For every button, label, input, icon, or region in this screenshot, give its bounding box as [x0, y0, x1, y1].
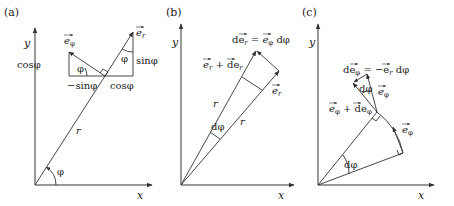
e-phi-right-label: eφ	[402, 124, 413, 137]
svg-text:eφ: eφ	[378, 86, 389, 99]
e-r-label: er	[272, 85, 282, 98]
e-r-label: e r	[136, 27, 146, 40]
dphi-label: dφ	[211, 121, 224, 132]
svg-text:eφ: eφ	[402, 124, 413, 137]
minus-sin-label: −sinφ	[67, 80, 97, 91]
e-phi-plus-de-phi-label: eφ + deφ	[329, 103, 372, 116]
e-phi-top-label: eφ	[378, 86, 389, 99]
e-r-plus-de-r-label: er + der	[203, 59, 243, 72]
x-axis-label: x	[418, 189, 425, 202]
dphi-arc-mark	[210, 132, 220, 139]
svg-text:φ: φ	[70, 40, 75, 48]
panel-b: (b) y x dφ r r der = eφ dφ er + der	[166, 6, 294, 202]
x-axis-label: x	[137, 189, 144, 202]
r-label: r	[76, 125, 82, 136]
y-axis-label: y	[171, 36, 179, 49]
e-phi-label: e φ	[64, 35, 75, 48]
dphi-angle-label: dφ	[344, 159, 357, 170]
svg-text:er: er	[272, 85, 282, 98]
phi-left-label: φ	[77, 63, 84, 74]
panel-c-label: (c)	[302, 6, 317, 19]
svg-text:deφ = −er dφ: deφ = −er dφ	[343, 64, 409, 77]
phi-left-arc	[85, 68, 87, 76]
svg-text:r: r	[142, 32, 146, 40]
phi-right-label: φ	[121, 53, 128, 64]
e-r-vector-arrow	[105, 32, 133, 76]
svg-text:eφ + deφ: eφ + deφ	[329, 103, 372, 116]
svg-text:der = eφ dφ: der = eφ dφ	[232, 34, 290, 47]
de-r-vector-arrow	[257, 51, 279, 71]
polar-unit-vectors-diagram: (a) y x r φ e r e φ	[0, 0, 454, 206]
panel-b-label: (b)	[166, 6, 182, 19]
panel-a: (a) y x r φ e r e φ	[4, 6, 158, 202]
cos-left-label: cosφ	[17, 59, 41, 70]
r-upper-label: r	[213, 98, 219, 109]
r-lower-label: r	[240, 116, 246, 127]
phi-angle-arc	[46, 167, 56, 185]
panel-a-label: (a)	[4, 6, 19, 19]
radius-line	[35, 76, 105, 185]
phi-right-arc	[122, 49, 133, 52]
circle-arc	[377, 112, 403, 153]
y-axis-label: y	[23, 37, 31, 50]
cos-bottom-label: cosφ	[110, 80, 134, 91]
panel-c: (c) y x dφ deφ = −er dφ dφ eφ	[302, 6, 434, 202]
svg-text:er + der: er + der	[203, 59, 243, 72]
sin-right-label: sinφ	[136, 55, 158, 66]
unit-circle-chord	[242, 77, 262, 90]
y-axis-label: y	[308, 36, 316, 49]
de-phi-equation: deφ = −er dφ	[343, 64, 409, 77]
dphi-triangle-label: dφ	[359, 83, 372, 94]
e-r-vector-arrow	[181, 71, 279, 185]
phi-angle-label: φ	[57, 166, 64, 177]
x-axis-label: x	[278, 189, 285, 202]
de-r-equation: der = eφ dφ	[232, 34, 290, 47]
